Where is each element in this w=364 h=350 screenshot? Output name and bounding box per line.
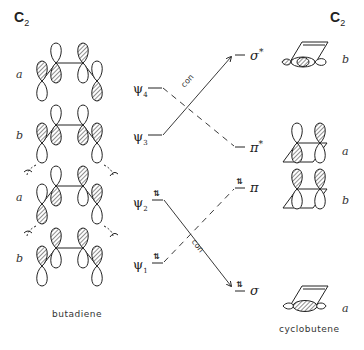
point-group-left: C2 (14, 10, 29, 28)
butadiene-orbitals (24, 43, 118, 286)
cyclobutene-symmetry-1: b (342, 54, 349, 65)
butadiene-mo-row-4 (37, 228, 103, 286)
sigma-star-label: σ* (250, 48, 263, 62)
butadiene-symmetry-4: b (16, 253, 23, 264)
cyclobutene-mo-row-1 (282, 42, 328, 67)
cyclobutene-mo-row-3 (283, 169, 327, 209)
correlation-diagram (0, 0, 364, 350)
butadiene-symmetry-2: b (16, 130, 23, 141)
cyclobutene-mo-row-2 (283, 123, 327, 163)
psi3-label: ψ3 (133, 130, 148, 147)
psi1-electrons: ⇅ (153, 253, 160, 261)
pi-star-label: π* (250, 140, 263, 154)
pi-label: π (250, 181, 259, 194)
cyclobutene-mo-row-4 (283, 286, 328, 312)
cyclobutene-caption: cyclobutene (279, 325, 339, 334)
psi2-electrons: ⇅ (153, 190, 160, 198)
cyclobutene-symmetry-3: b (342, 195, 349, 206)
cyclobutene-orbitals (282, 42, 328, 312)
pi-electrons: ⇅ (236, 178, 243, 186)
point-group-right: C2 (330, 10, 345, 28)
butadiene-symmetry-1: a (16, 69, 23, 80)
psi1-label: ψ1 (133, 258, 148, 275)
psi2-label: ψ2 (133, 196, 148, 213)
cyclobutene-symmetry-4: a (342, 303, 349, 314)
psi4-to-pi-star (163, 88, 234, 146)
sigma-label: σ (250, 284, 259, 297)
psi4-label: ψ4 (133, 82, 148, 99)
butadiene-caption: butadiene (52, 310, 102, 319)
sigma-electrons: ⇅ (236, 281, 243, 289)
butadiene-mo-row-3 (24, 166, 118, 237)
energy-levels (148, 55, 245, 291)
butadiene-symmetry-3: a (16, 192, 23, 203)
butadiene-mo-row-1 (37, 43, 103, 101)
butadiene-mo-row-2 (24, 105, 118, 176)
cyclobutene-symmetry-2: a (342, 146, 349, 157)
